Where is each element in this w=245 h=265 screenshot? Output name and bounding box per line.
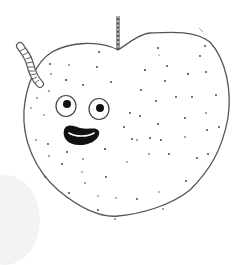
apple-body [24, 32, 229, 216]
right-eye [89, 99, 109, 120]
leaf-tick [199, 28, 203, 32]
left-eye [56, 96, 76, 117]
worm [20, 46, 40, 84]
